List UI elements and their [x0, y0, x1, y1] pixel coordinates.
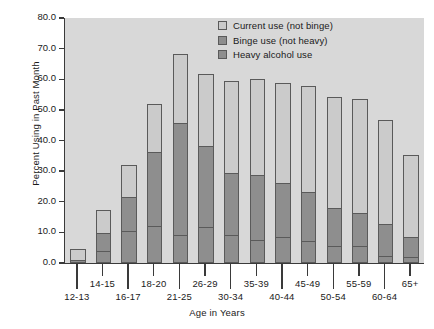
y-tick-label: 30.0 [38, 164, 57, 175]
bar-segment-binge-use [198, 146, 213, 227]
bar-column [327, 97, 342, 263]
x-axis-label: 50-54 [306, 291, 360, 302]
bar-column [96, 210, 111, 263]
y-axis-title: Percent Using in Past Month [30, 29, 41, 219]
bar-segment-current-use [403, 155, 418, 237]
bar-segment-heavy-use [301, 241, 316, 263]
bar-segment-binge-use [301, 192, 316, 241]
y-tick-label: 80.0 [38, 11, 57, 22]
y-tick-mark [59, 232, 64, 233]
y-tick-mark [59, 262, 64, 263]
bar-segment-heavy-use [327, 246, 342, 263]
bar-segment-heavy-use [147, 226, 162, 263]
bar-column [403, 155, 418, 263]
bar-segment-current-use [70, 249, 85, 260]
y-tick-label: 60.0 [38, 72, 57, 83]
bar-segment-current-use [301, 86, 316, 192]
legend-label-heavy-use: Heavy alcohol use [233, 49, 312, 60]
bar-column [352, 99, 367, 263]
bar-segment-binge-use [275, 183, 290, 237]
bar-segment-heavy-use [403, 257, 418, 263]
y-tick-label: 50.0 [38, 103, 57, 114]
x-axis-label: 45-49 [281, 278, 335, 289]
chart-figure: Percent Using in Past Month 0.010.020.03… [0, 0, 434, 329]
bar-column [121, 165, 136, 263]
x-axis-label: 14-15 [75, 278, 129, 289]
bar-segment-current-use [275, 83, 290, 183]
bar-segment-current-use [147, 104, 162, 151]
bar-segment-heavy-use [173, 235, 188, 263]
x-axis-label: 26-29 [178, 278, 232, 289]
bar-segment-binge-use [250, 175, 265, 240]
legend-item-heavy-use: Heavy alcohol use [218, 49, 333, 60]
legend-swatch-heavy-use [218, 50, 227, 59]
bar-segment-binge-use [173, 123, 188, 234]
bar-segment-heavy-use [96, 251, 111, 263]
bar-column [224, 81, 239, 263]
bar-segment-heavy-use [275, 237, 290, 263]
bar-segment-current-use [327, 97, 342, 208]
chart-legend: Current use (not binge) Binge use (not h… [218, 20, 333, 64]
y-tick-mark [59, 48, 64, 49]
bar-segment-current-use [250, 79, 265, 175]
x-axis-label: 12-13 [50, 291, 104, 302]
legend-swatch-current-use [218, 21, 227, 30]
y-tick-label: 10.0 [38, 225, 57, 236]
bar-segment-heavy-use [352, 246, 367, 263]
bar-segment-binge-use [327, 208, 342, 246]
y-tick-mark [59, 201, 64, 202]
y-tick-mark [59, 17, 64, 18]
bar-segment-binge-use [96, 233, 111, 251]
x-axis-label: 60-64 [358, 291, 412, 302]
legend-item-binge-use: Binge use (not heavy) [218, 35, 333, 46]
bar-segment-binge-use [352, 213, 367, 245]
x-axis-tick [102, 263, 103, 276]
x-axis-label: 30-34 [204, 291, 258, 302]
legend-label-current-use: Current use (not binge) [233, 20, 333, 31]
bar-segment-heavy-use [198, 227, 213, 263]
bar-segment-binge-use [121, 197, 136, 231]
y-tick-mark [59, 109, 64, 110]
x-axis-tick [204, 263, 205, 276]
x-axis-tick [153, 263, 154, 276]
x-axis-tick [409, 263, 410, 276]
y-tick-label: 0.0 [43, 256, 56, 267]
bar-segment-current-use [352, 99, 367, 213]
x-axis-label: 18-20 [127, 278, 181, 289]
y-tick-mark [59, 79, 64, 80]
x-axis-label: 21-25 [152, 291, 206, 302]
bar-segment-binge-use [403, 237, 418, 256]
bar-column [70, 249, 85, 263]
bar-segment-binge-use [224, 173, 239, 235]
x-axis-label: 55-59 [332, 278, 386, 289]
y-tick-label: 40.0 [38, 134, 57, 145]
bar-segment-current-use [378, 120, 393, 224]
y-tick-mark [59, 170, 64, 171]
bar-segment-binge-use [378, 224, 393, 257]
y-tick-label: 70.0 [38, 42, 57, 53]
bar-column [301, 86, 316, 263]
legend-swatch-binge-use [218, 36, 227, 45]
legend-label-binge-use: Binge use (not heavy) [233, 35, 328, 46]
bar-segment-heavy-use [121, 231, 136, 263]
x-axis-label: 35-39 [229, 278, 283, 289]
bar-column [198, 74, 213, 263]
x-axis-label: 16-17 [101, 291, 155, 302]
bar-segment-current-use [173, 54, 188, 124]
bar-segment-heavy-use [224, 235, 239, 263]
y-tick-label: 20.0 [38, 195, 57, 206]
bar-segment-current-use [224, 81, 239, 173]
bar-column [378, 120, 393, 263]
bar-column [250, 79, 265, 263]
x-axis-tick [307, 263, 308, 276]
x-axis-tick [256, 263, 257, 276]
x-axis-tick [358, 263, 359, 276]
x-axis-label: 40-44 [255, 291, 309, 302]
x-axis-title: Age in Years [0, 307, 434, 318]
bar-segment-heavy-use [378, 256, 393, 263]
bar-segment-current-use [96, 210, 111, 233]
bar-segment-heavy-use [250, 240, 265, 263]
bar-segment-heavy-use [70, 260, 85, 263]
bar-column [275, 83, 290, 263]
bar-segment-current-use [121, 165, 136, 198]
